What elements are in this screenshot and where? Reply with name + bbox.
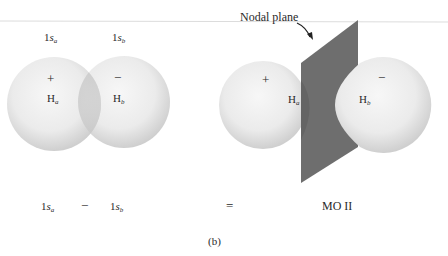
equation-equals: = xyxy=(226,199,233,212)
figure-graphics xyxy=(0,0,448,256)
equation-term-1s-b: 1sb xyxy=(110,200,123,216)
nodal-plane-label: Nodal plane xyxy=(240,11,298,23)
plus-sign-left: + xyxy=(47,72,54,85)
label-1s-a-top: 1sa xyxy=(44,31,57,47)
atom-label-ha-right: Ha xyxy=(288,93,299,109)
molecular-orbital-figure: 1sa 1sb + − Ha Hb Nodal plane + − Ha Hb … xyxy=(0,0,448,256)
minus-sign-left: − xyxy=(114,71,121,84)
top-rule xyxy=(0,21,448,22)
atom-label-ha-left: Ha xyxy=(47,92,58,108)
equation-term-1s-a: 1sa xyxy=(41,200,54,216)
atom-label-hb-right: Hb xyxy=(359,93,370,109)
right-orbital-pair xyxy=(219,20,431,183)
minus-sign-right: − xyxy=(378,71,385,84)
left-orbital-pair xyxy=(7,56,170,151)
atom-label-hb-left: Hb xyxy=(113,92,124,108)
equation-result-mo-ii: MO II xyxy=(322,200,352,212)
label-1s-b-top: 1sb xyxy=(112,31,125,47)
plus-sign-right: + xyxy=(262,73,269,86)
figure-caption: (b) xyxy=(208,235,221,247)
equation-minus: − xyxy=(81,199,88,212)
